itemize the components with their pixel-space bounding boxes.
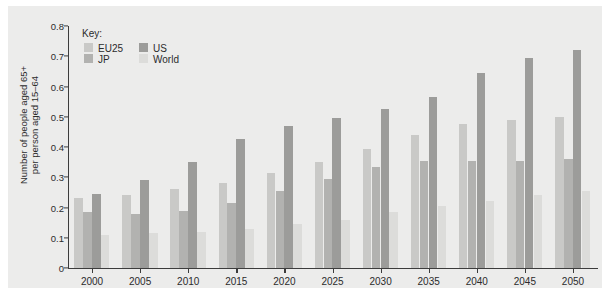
legend-swatch-eu25-cell — [82, 43, 96, 54]
bar-eu25-2005 — [122, 195, 130, 268]
chart-page: Number of people aged 65+ per person age… — [0, 0, 610, 296]
bar-world-2025 — [341, 220, 349, 268]
x-axis-tick-mark — [573, 268, 574, 273]
bar-world-2050 — [582, 191, 590, 268]
bar-group — [555, 26, 591, 268]
bar-world-2015 — [245, 229, 253, 268]
legend-swatch-world-cell — [137, 54, 151, 65]
chart-panel: Number of people aged 65+ per person age… — [8, 6, 602, 288]
chart-legend: Key: EU25 US JP World — [82, 28, 181, 65]
legend-swatch-us — [139, 43, 148, 52]
bar-eu25-2035 — [411, 135, 419, 268]
x-axis-tick-mark — [333, 268, 334, 273]
bar-eu25-2000 — [74, 198, 82, 268]
bar-us-2020 — [284, 126, 292, 268]
bar-us-2015 — [236, 139, 244, 268]
bar-world-2030 — [389, 212, 397, 268]
y-axis-tick-label: 0.6 — [24, 81, 64, 92]
y-axis-tick-mark — [64, 56, 68, 57]
bar-us-2005 — [140, 180, 148, 268]
y-axis-tick-mark — [64, 146, 68, 147]
bar-jp-2045 — [516, 161, 524, 268]
legend-label-jp: JP — [96, 54, 137, 65]
bar-jp-2050 — [564, 159, 572, 268]
y-axis-tick-label: 0.8 — [24, 21, 64, 32]
bar-us-2035 — [429, 97, 437, 268]
legend-swatch-eu25 — [84, 43, 93, 52]
bar-eu25-2015 — [219, 183, 227, 268]
bar-group — [363, 26, 399, 268]
legend-swatch-world — [139, 54, 148, 63]
bar-us-2025 — [332, 118, 340, 268]
bar-jp-2035 — [420, 161, 428, 268]
y-axis-tick-label: 0.7 — [24, 51, 64, 62]
y-axis-tick-mark — [64, 207, 68, 208]
y-axis-tick-label: 0.3 — [24, 172, 64, 183]
legend-entries: EU25 US JP World — [82, 43, 181, 65]
legend-title: Key: — [82, 28, 181, 39]
bar-eu25-2030 — [363, 149, 371, 268]
y-axis-tick-mark — [64, 237, 68, 238]
y-axis-tick-mark — [64, 267, 68, 268]
legend-swatch-us-cell — [137, 43, 151, 54]
x-axis-tick-mark — [236, 268, 237, 273]
bar-us-2030 — [381, 109, 389, 268]
y-axis-tick-label: 0.5 — [24, 111, 64, 122]
bar-group — [459, 26, 495, 268]
bar-us-2040 — [477, 73, 485, 268]
bar-world-2005 — [149, 233, 157, 268]
x-axis-tick-mark — [92, 268, 93, 273]
y-axis-tick-mark — [64, 25, 68, 26]
y-axis-tick-label: 0.2 — [24, 202, 64, 213]
bar-eu25-2045 — [507, 120, 515, 268]
x-axis-tick-mark — [140, 268, 141, 273]
bar-eu25-2040 — [459, 124, 467, 268]
bar-us-2010 — [188, 162, 196, 268]
y-axis-tick-mark — [64, 86, 68, 87]
legend-swatch-jp-cell — [82, 54, 96, 65]
y-axis-tick-mark — [64, 177, 68, 178]
x-axis-tick-label: 2050 — [543, 276, 603, 287]
bar-world-2035 — [438, 206, 446, 268]
legend-label-us: US — [151, 43, 181, 54]
bar-world-2045 — [534, 195, 542, 268]
y-axis-tick-mark — [64, 116, 68, 117]
legend-label-world: World — [151, 54, 181, 65]
x-axis-tick-mark — [477, 268, 478, 273]
bar-jp-2030 — [372, 167, 380, 268]
bar-eu25-2010 — [170, 189, 178, 268]
bar-jp-2010 — [179, 211, 187, 268]
bar-world-2000 — [101, 235, 109, 268]
bar-jp-2040 — [468, 161, 476, 268]
bar-world-2040 — [486, 201, 494, 268]
bar-eu25-2020 — [267, 173, 275, 268]
bar-group — [219, 26, 255, 268]
x-axis-tick-mark — [525, 268, 526, 273]
bar-eu25-2050 — [555, 117, 563, 268]
bar-jp-2000 — [83, 212, 91, 268]
y-axis-tick-label: 0 — [24, 263, 64, 274]
bar-eu25-2025 — [315, 162, 323, 268]
bar-jp-2005 — [131, 214, 139, 268]
bar-world-2010 — [197, 232, 205, 268]
bar-group — [315, 26, 351, 268]
bar-jp-2020 — [276, 191, 284, 268]
bar-group — [267, 26, 303, 268]
x-axis-tick-mark — [381, 268, 382, 273]
bar-world-2020 — [293, 224, 301, 268]
bar-group — [411, 26, 447, 268]
x-axis-tick-mark — [429, 268, 430, 273]
x-axis-tick-mark — [188, 268, 189, 273]
bar-jp-2025 — [324, 179, 332, 268]
bar-jp-2015 — [227, 203, 235, 268]
y-axis-tick-label: 0.1 — [24, 232, 64, 243]
bar-us-2000 — [92, 194, 100, 268]
legend-label-eu25: EU25 — [96, 43, 137, 54]
x-axis-tick-mark — [284, 268, 285, 273]
legend-swatch-jp — [84, 54, 93, 63]
bar-group — [507, 26, 543, 268]
bar-us-2045 — [525, 58, 533, 268]
bar-us-2050 — [573, 50, 581, 268]
y-axis-tick-label: 0.4 — [24, 142, 64, 153]
